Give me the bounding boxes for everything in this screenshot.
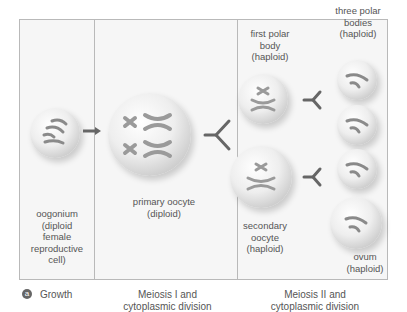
- polar-body-cell-1: [337, 60, 377, 100]
- stage-label-meiosis-1: Meiosis I and cytoplasmic division: [100, 289, 235, 312]
- primary-oocyte-cell: [108, 93, 191, 176]
- ovum-cell: [330, 197, 382, 249]
- split-arrow-icon: [203, 115, 233, 155]
- polar-body-cell-2: [337, 105, 377, 145]
- ovum-label: ovum (haploid): [340, 251, 390, 274]
- chromosome-icon: [108, 93, 191, 176]
- first-polar-body-cell: [238, 74, 288, 124]
- chromosome-icon: [30, 108, 80, 158]
- polar-body-cell-3: [337, 149, 377, 189]
- oogonium-cell: [30, 108, 80, 158]
- secondary-oocyte-cell: [230, 146, 292, 208]
- split-arrow-icon: [302, 89, 324, 111]
- arrow-right-icon: [82, 126, 102, 136]
- secondary-oocyte-label: secondary oocyte (haploid): [235, 220, 295, 255]
- chromosome-icon: [230, 146, 292, 208]
- panel-letter-badge: a: [22, 289, 32, 299]
- oogonium-label: oogonium (diploid female reproductive ce…: [22, 208, 92, 266]
- split-arrow-icon: [302, 166, 324, 188]
- stage-label-growth: Growth: [40, 289, 90, 301]
- first-polar-body-label: first polar body (haploid): [240, 28, 300, 63]
- three-polar-bodies-label: three polar bodies (haploid): [328, 5, 388, 40]
- stage-divider-1: [94, 19, 95, 280]
- chromosome-icon: [337, 60, 377, 100]
- stage-label-meiosis-2: Meiosis II and cytoplasmic division: [240, 289, 390, 312]
- chromosome-icon: [238, 74, 288, 124]
- chromosome-icon: [337, 149, 377, 189]
- primary-oocyte-label: primary oocyte (diploid): [99, 196, 229, 219]
- chromosome-icon: [337, 105, 377, 145]
- chromosome-icon: [330, 197, 382, 249]
